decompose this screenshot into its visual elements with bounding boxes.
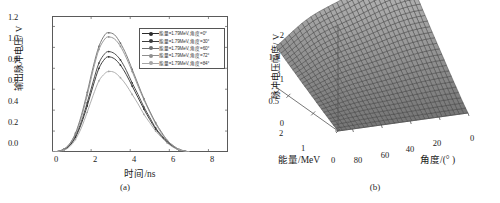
legend-line-marker-icon bbox=[142, 38, 159, 45]
panel-a-legend: 能量=1.79MeV, 角度=0° 能量=1.79MeV, 角度=30° 能量=… bbox=[139, 28, 225, 69]
legend-item: 能量=1.79MeV, 角度=0° bbox=[142, 30, 223, 37]
panel-a-y-tick: 1.2 bbox=[0, 12, 18, 22]
legend-line-marker-icon bbox=[142, 60, 159, 67]
legend-line-marker-icon bbox=[142, 30, 159, 37]
panel-a-x-tick: 0 bbox=[46, 154, 66, 164]
panel-a-x-axis-label: 时间/ns bbox=[52, 166, 228, 180]
panel-a-y-tick: 1.0 bbox=[0, 33, 18, 43]
panel-b-y-axis-label: 角度/(° ) bbox=[420, 152, 455, 166]
legend-item: 能量=1.79MeV, 角度=30° bbox=[142, 37, 223, 44]
panel-b-y-tick: 80 bbox=[351, 155, 365, 165]
panel-b-x-axis-label: 能量/MeV bbox=[278, 152, 320, 166]
legend-line-marker-icon bbox=[142, 52, 159, 59]
panel-b-y-tick: 0 bbox=[465, 133, 479, 143]
panel-b-x-tick: 0 bbox=[326, 155, 340, 165]
panel-b-y-tick: 60 bbox=[378, 150, 392, 160]
panel-a-x-tick: 8 bbox=[202, 154, 222, 164]
legend-item-label: 能量=1.79MeV, 角度=30° bbox=[159, 38, 209, 45]
legend-item-label: 能量=1.79MeV, 角度=60° bbox=[159, 45, 209, 52]
legend-item-label: 能量=1.79MeV, 角度=72° bbox=[159, 52, 209, 59]
legend-item-label: 能量=1.79MeV, 角度=0° bbox=[159, 30, 207, 37]
panel-b-y-tick: 40 bbox=[403, 144, 417, 154]
legend-item-label: 能量=1.79MeV, 角度=84° bbox=[159, 60, 209, 67]
panel-a-y-tick: 0.8 bbox=[0, 54, 18, 64]
panel-a-x-tick: 4 bbox=[124, 154, 144, 164]
panel-a-y-tick: 0.4 bbox=[0, 96, 18, 106]
panel-a-line-chart: 输出脉冲电压/ V 1.2 1.0 0.8 0.6 0.4 0.2 0.0 0 … bbox=[0, 0, 250, 203]
panel-a-y-tick: 0.2 bbox=[0, 117, 18, 127]
panel-b-x-tick: 2 bbox=[274, 128, 288, 138]
panel-b-caption: (b) bbox=[250, 182, 500, 192]
panel-a-y-tick: 0.6 bbox=[0, 75, 18, 85]
panel-a-y-tick: 0.0 bbox=[0, 138, 18, 148]
panel-a-x-tick: 6 bbox=[163, 154, 183, 164]
legend-item: 能量=1.79MeV, 角度=60° bbox=[142, 45, 223, 52]
figure-container: 输出脉冲电压/ V 1.2 1.0 0.8 0.6 0.4 0.2 0.0 0 … bbox=[0, 0, 500, 203]
panel-a-caption: (a) bbox=[0, 182, 250, 192]
legend-line-marker-icon bbox=[142, 45, 159, 52]
panel-a-x-tick: 2 bbox=[85, 154, 105, 164]
panel-b-y-tick: 20 bbox=[430, 138, 444, 148]
legend-item: 能量=1.79MeV, 角度=84° bbox=[142, 60, 223, 67]
legend-item: 能量=1.79MeV, 角度=72° bbox=[142, 52, 223, 59]
panel-b-surface-chart: 脉冲电压幅度/ V 2 1.5 1 0.5 0 2 1 0 80 60 40 2… bbox=[250, 0, 500, 203]
